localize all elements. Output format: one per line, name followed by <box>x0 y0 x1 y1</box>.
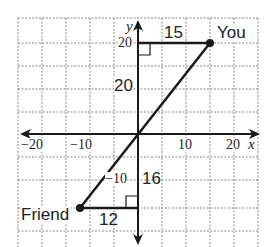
y-tick-label: 20 <box>118 36 132 50</box>
coordinate-plane-diagram: y x −20 −10 10 20 20 −10 15 20 16 12 You… <box>0 0 270 247</box>
you-point <box>206 39 214 47</box>
x-axis-label: x <box>248 137 255 152</box>
y-tick-label: −10 <box>105 172 127 186</box>
friend-point <box>76 204 84 212</box>
segment-label-12: 12 <box>99 211 118 228</box>
you-label: You <box>217 24 246 41</box>
segment-label-15: 15 <box>164 24 183 41</box>
x-tick-label: −10 <box>70 138 92 152</box>
x-tick-label: −20 <box>21 138 43 152</box>
x-tick-label: 10 <box>178 138 192 152</box>
right-angle-marker-icon <box>126 196 138 208</box>
x-tick-label: 20 <box>226 138 240 152</box>
y-axis-label: y <box>126 19 133 34</box>
segment-label-16: 16 <box>142 170 161 187</box>
right-angle-marker-icon <box>138 43 150 55</box>
friend-label: Friend <box>21 206 69 223</box>
you-triangle <box>138 43 210 55</box>
segment-label-20: 20 <box>114 77 133 94</box>
